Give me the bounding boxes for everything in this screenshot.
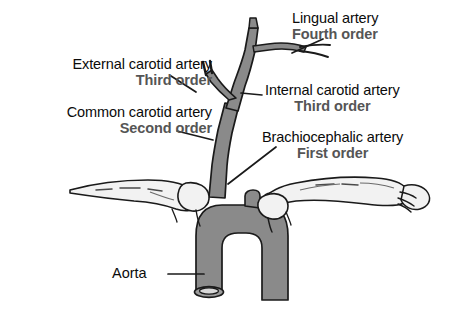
left-clavicle-bone (70, 180, 209, 226)
figure-canvas: Lingual artery Fourth order External car… (0, 0, 468, 310)
label-aorta: Aorta (112, 265, 147, 281)
common-carotid-artery-order: Second order (0, 121, 212, 137)
brachiocephalic-artery-name: Brachiocephalic artery (262, 130, 403, 146)
label-internal-carotid-artery: Internal carotid artery Third order (265, 83, 400, 114)
external-carotid-artery-name: External carotid artery (0, 57, 212, 73)
lingual-artery-name: Lingual artery (292, 11, 378, 27)
internal-carotid-artery-name: Internal carotid artery (265, 83, 400, 99)
brachiocephalic-and-common-carotid (209, 103, 239, 198)
label-lingual-artery: Lingual artery Fourth order (292, 11, 378, 42)
internal-carotid-upper-branch (249, 18, 258, 28)
aorta-cut-end (195, 287, 224, 298)
label-common-carotid-artery: Common carotid artery Second order (0, 105, 212, 136)
brachiocephalic-artery-order: First order (262, 146, 403, 162)
label-brachiocephalic-artery: Brachiocephalic artery First order (262, 130, 403, 161)
common-carotid-artery-name: Common carotid artery (0, 105, 212, 121)
lingual-artery-order: Fourth order (292, 27, 378, 43)
internal-carotid-artery-order: Third order (265, 99, 400, 115)
lingual-artery (253, 43, 330, 57)
external-carotid-artery-order: Third order (0, 73, 212, 89)
label-external-carotid-artery: External carotid artery Third order (0, 57, 212, 88)
leader-internal-carotid (241, 93, 262, 95)
